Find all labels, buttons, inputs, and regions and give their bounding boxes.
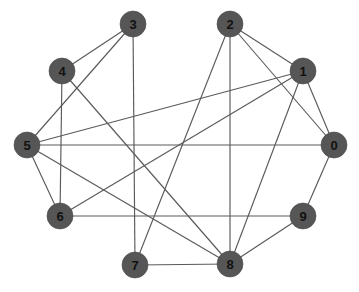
graph-edge-4-6 bbox=[60, 71, 62, 216]
graph-node-label-2: 2 bbox=[226, 17, 233, 32]
graph-node-3[interactable]: 3 bbox=[120, 11, 146, 37]
graph-node-9[interactable]: 9 bbox=[290, 203, 316, 229]
graph-edge-6-1 bbox=[60, 71, 303, 216]
graph-node-label-6: 6 bbox=[56, 209, 63, 224]
graph-node-label-9: 9 bbox=[299, 209, 306, 224]
graph-node-8[interactable]: 8 bbox=[217, 251, 243, 277]
graph-node-7[interactable]: 7 bbox=[122, 252, 148, 278]
graph-node-2[interactable]: 2 bbox=[217, 11, 243, 37]
graph-node-4[interactable]: 4 bbox=[49, 58, 75, 84]
graph-node-5[interactable]: 5 bbox=[14, 132, 40, 158]
graph-node-label-8: 8 bbox=[226, 257, 233, 272]
graph-node-label-3: 3 bbox=[129, 17, 136, 32]
graph-node-label-0: 0 bbox=[330, 138, 337, 153]
graph-node-label-4: 4 bbox=[58, 64, 66, 79]
graph-diagram: 0123456789 bbox=[0, 0, 359, 292]
graph-edge-3-5 bbox=[27, 24, 133, 145]
edges-layer bbox=[27, 24, 334, 265]
graph-edge-4-8 bbox=[62, 71, 230, 264]
graph-edge-1-8 bbox=[230, 71, 303, 264]
graph-canvas: 0123456789 bbox=[0, 0, 359, 292]
graph-edge-7-8 bbox=[135, 264, 230, 265]
graph-node-0[interactable]: 0 bbox=[321, 132, 347, 158]
graph-node-label-1: 1 bbox=[299, 64, 306, 79]
graph-node-label-7: 7 bbox=[131, 258, 138, 273]
graph-node-1[interactable]: 1 bbox=[290, 58, 316, 84]
graph-node-label-5: 5 bbox=[23, 138, 30, 153]
graph-node-6[interactable]: 6 bbox=[47, 203, 73, 229]
